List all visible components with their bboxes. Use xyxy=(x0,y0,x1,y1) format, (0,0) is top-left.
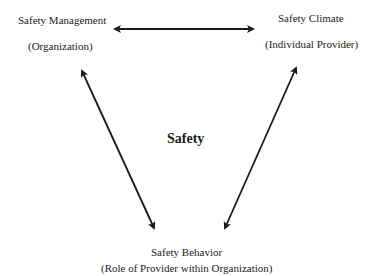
node-safety-behavior-subtitle: (Role of Provider within Organization) xyxy=(101,262,272,274)
center-label-safety: Safety xyxy=(167,131,204,147)
node-safety-climate-title: Safety Climate xyxy=(278,12,344,24)
arrow-climate-behavior xyxy=(225,68,296,228)
node-safety-management-title: Safety Management xyxy=(18,14,106,26)
node-safety-behavior-title: Safety Behavior xyxy=(151,246,222,258)
node-safety-climate-subtitle: (Individual Provider) xyxy=(265,38,358,50)
arrow-management-behavior xyxy=(82,71,154,228)
node-safety-management-subtitle: (Organization) xyxy=(28,40,93,52)
